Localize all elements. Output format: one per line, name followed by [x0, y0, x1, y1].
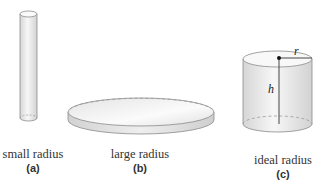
large-radius-cylinder [68, 98, 214, 134]
sublabel-b: (b) [133, 162, 147, 174]
height-label: h [268, 82, 274, 97]
caption-large-radius: large radius [111, 147, 169, 162]
caption-ideal-radius: ideal radius [254, 153, 312, 168]
sublabel-a: (a) [26, 162, 39, 174]
radius-label: r [294, 44, 299, 59]
sublabel-c: (c) [276, 168, 289, 180]
center-point [277, 56, 281, 60]
ideal-radius-cylinder [243, 51, 312, 132]
caption-small-radius: small radius [3, 147, 64, 162]
small-radius-cylinder [20, 11, 37, 121]
